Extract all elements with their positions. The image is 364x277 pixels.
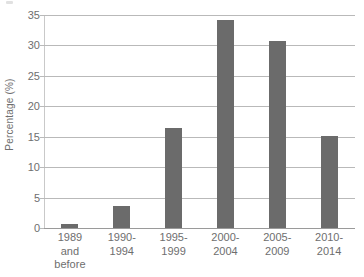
x-tick-label: 1989andbefore [54,231,85,272]
plot-area [44,15,355,228]
x-tick-label-line: 2014 [315,245,343,259]
y-tick-label: 25 [16,70,40,81]
x-tick-label-line: 1999 [160,245,188,259]
y-tick-label: 20 [16,101,40,112]
x-axis-tick-labels: 1989andbefore1990-19941995-19992000-2004… [44,231,355,277]
y-axis-title-label: Percentage (%) [4,78,15,150]
y-tick-label: 5 [16,192,40,203]
y-axis-tick-labels: 05101520253035 [16,0,40,240]
bar-chart: Percentage (%) 05101520253035 1989andbef… [0,0,364,277]
x-tick-label-line: 1989 [54,231,85,245]
x-tick-label: 2010-2014 [315,231,343,258]
y-tick-label: 10 [16,162,40,173]
y-tick-label: 30 [16,40,40,51]
x-tick-label-line: 1994 [108,245,136,259]
x-tick-label-line: 1990- [108,231,136,245]
x-tick-label-line: 2004 [211,245,239,259]
x-tick-label: 2005-2009 [263,231,291,258]
x-tick-label-line: before [54,258,85,272]
x-tick-label-line: 1995- [160,231,188,245]
x-tick-label-line: 2005- [263,231,291,245]
bar [217,20,234,228]
x-tick-label: 2000-2004 [211,231,239,258]
bar [321,136,338,229]
bar [269,41,286,228]
x-tick-label-line: 2010- [315,231,343,245]
y-tick-label: 0 [16,223,40,234]
x-tick-label-line: 2000- [211,231,239,245]
gridline [44,228,355,229]
y-tick-label: 35 [16,10,40,21]
x-tick-label-line: and [54,245,85,259]
x-tick-label-line: 2009 [263,245,291,259]
bar-series [44,15,355,228]
bar [113,206,130,228]
x-tick-label: 1995-1999 [160,231,188,258]
x-tick-label: 1990-1994 [108,231,136,258]
y-tick-label: 15 [16,131,40,142]
bar [61,224,78,228]
y-tick-mark [40,228,44,229]
bar [165,128,182,228]
